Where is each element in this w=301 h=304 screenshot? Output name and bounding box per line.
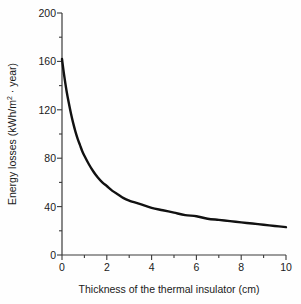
chart-figure: 04080120160200 0246810 Energy losses (kW… [0,0,301,304]
energy-losses-curve [62,59,286,227]
y-tick-label: 80 [30,153,56,163]
x-tick-label: 4 [140,262,164,273]
x-tick-label: 0 [50,262,74,273]
x-axis-title: Thickness of the thermal insulator (cm) [40,283,298,295]
x-tick-label: 8 [229,262,253,273]
y-tick-label: 120 [30,105,56,115]
y-tick-label: 0 [30,250,56,260]
y-axis-title-superscript: 2 [6,96,13,100]
y-axis-title: Energy losses (kWh/m2 · year) [4,4,20,264]
y-axis-tick-labels: 04080120160200 [28,0,56,304]
y-tick-label: 160 [30,56,56,66]
x-axis-tick-labels: 0246810 [0,262,301,278]
y-tick-label: 40 [30,202,56,212]
y-tick-label: 200 [30,8,56,18]
x-tick-label: 10 [274,262,298,273]
x-tick-label: 6 [184,262,208,273]
y-axis-title-after: · year) [6,63,18,96]
y-axis-title-before: Energy losses (kWh/m [6,100,18,205]
x-tick-label: 2 [95,262,119,273]
